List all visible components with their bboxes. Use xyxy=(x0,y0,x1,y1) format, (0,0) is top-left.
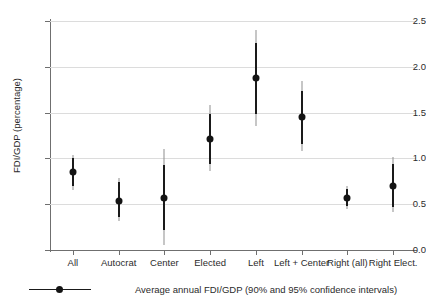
data-point xyxy=(390,182,397,189)
gridline xyxy=(50,204,416,205)
y-tick-mark xyxy=(45,250,50,251)
y-tick-label: 1.5 xyxy=(386,108,426,118)
x-tick-label: Left xyxy=(248,258,264,268)
x-tick-mark xyxy=(347,250,348,255)
y-axis-line xyxy=(50,19,51,252)
x-tick-mark xyxy=(73,250,74,255)
x-tick-label: All xyxy=(68,258,79,268)
gridline xyxy=(50,158,416,159)
x-tick-mark xyxy=(210,250,211,255)
y-tick-label: 0.0 xyxy=(386,245,426,255)
x-tick-label: Left + Center xyxy=(274,258,329,268)
y-tick-mark xyxy=(45,204,50,205)
x-tick-mark xyxy=(393,250,394,255)
gridline xyxy=(50,21,416,22)
data-point xyxy=(207,136,214,143)
chart-container: 0.00.51.01.52.02.5 AllAutocratCenterElec… xyxy=(0,0,426,304)
y-tick-mark xyxy=(45,67,50,68)
gridline xyxy=(50,67,416,68)
legend-dot-icon xyxy=(56,286,63,293)
legend-label: Average annual FDI/GDP (90% and 95% conf… xyxy=(135,284,397,295)
x-tick-label: Right Elect. xyxy=(369,258,418,268)
x-tick-label: Autocrat xyxy=(101,258,136,268)
y-tick-label: 2.0 xyxy=(386,62,426,72)
y-tick-mark xyxy=(45,21,50,22)
data-point xyxy=(298,114,305,121)
chart-legend: Average annual FDI/GDP (90% and 95% conf… xyxy=(0,278,426,300)
x-tick-mark xyxy=(164,250,165,255)
y-tick-mark xyxy=(45,113,50,114)
x-tick-mark xyxy=(119,250,120,255)
x-axis-line xyxy=(50,250,417,251)
legend-key-marker xyxy=(29,283,91,295)
data-point xyxy=(344,194,351,201)
x-tick-label: Center xyxy=(150,258,179,268)
x-tick-mark xyxy=(256,250,257,255)
y-tick-mark xyxy=(45,158,50,159)
x-tick-label: Right (all) xyxy=(327,258,368,268)
x-tick-mark xyxy=(302,250,303,255)
data-point xyxy=(252,74,259,81)
x-tick-label: Elected xyxy=(194,258,226,268)
data-point xyxy=(69,169,76,176)
y-axis-title: FDI/GDP (percentage) xyxy=(11,16,22,236)
data-point xyxy=(161,194,168,201)
y-tick-label: 2.5 xyxy=(386,16,426,26)
gridline xyxy=(50,113,416,114)
data-point xyxy=(115,197,122,204)
